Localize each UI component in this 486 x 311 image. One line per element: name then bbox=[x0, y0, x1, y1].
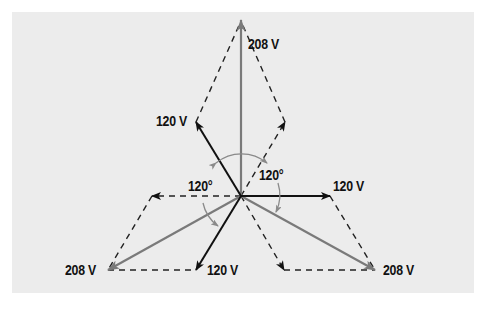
line-vector-bottom-left-arrow bbox=[108, 196, 241, 270]
line-voltage-vectors bbox=[108, 20, 375, 270]
label-top-line-voltage: 208 V bbox=[248, 36, 279, 52]
label-angle-left: 120° bbox=[188, 178, 212, 194]
angle-arc-right bbox=[276, 183, 280, 212]
label-bottom-left-line-voltage: 208 V bbox=[65, 262, 96, 278]
line-vector-bottom-right-arrow bbox=[241, 196, 375, 270]
label-angle-right: 120° bbox=[259, 167, 283, 183]
dashed-right-down bbox=[330, 196, 375, 270]
dashed-top-left bbox=[196, 21, 241, 122]
label-bottom-right-line-voltage: 208 V bbox=[383, 262, 414, 278]
angle-arc-left bbox=[203, 203, 218, 226]
phase-vector-down-left-arrow bbox=[196, 196, 241, 270]
label-bottom-phase-voltage: 120 V bbox=[207, 262, 238, 278]
label-upper-left-phase-voltage: 120 V bbox=[156, 113, 187, 129]
label-right-phase-voltage: 120 V bbox=[333, 178, 364, 194]
